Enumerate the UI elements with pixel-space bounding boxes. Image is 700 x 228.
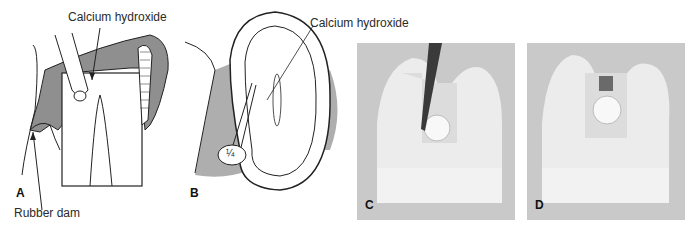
panel-letter-c: C [365, 198, 374, 212]
panel-b: ¼ B [170, 0, 350, 228]
panel-a-drawing [0, 0, 180, 228]
label-calcium-hydroxide-b: Calcium hydroxide [310, 16, 409, 30]
panel-a: Calcium hydroxide A Rubber dam [0, 0, 180, 228]
panel-c-photo: C [357, 43, 515, 220]
panel-c-image [357, 43, 515, 220]
panel-d-image [527, 43, 685, 220]
panel-letter-b: B [190, 186, 199, 200]
label-fraction: ¼ [226, 148, 234, 159]
panel-letter-a: A [16, 186, 25, 200]
label-calcium-hydroxide-a: Calcium hydroxide [68, 10, 167, 24]
panel-letter-d: D [535, 198, 544, 212]
label-rubber-dam: Rubber dam [14, 206, 80, 220]
panel-d-photo: D [527, 43, 685, 220]
